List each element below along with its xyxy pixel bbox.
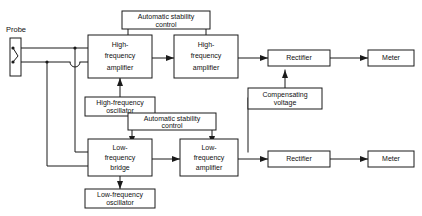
block-rectifier-bottom[interactable]: Rectifier	[268, 151, 330, 167]
arrowhead-hf-osc-to-hf-amp1	[117, 78, 123, 86]
block-high-frequency-amplifier-1[interactable]: High- frequency amplifier	[88, 35, 152, 78]
rectifier-bottom-label: Rectifier	[286, 155, 312, 162]
asc-bottom-label-line2: control	[161, 122, 182, 129]
arrowhead-lf-bridge-to-lf-osc	[117, 181, 123, 189]
comp-voltage-label-line2: voltage	[274, 99, 297, 107]
block-rectifier-top[interactable]: Rectifier	[268, 50, 330, 66]
block-automatic-stability-control-bottom[interactable]: Automatic stability control	[128, 113, 216, 130]
hf-amp-1-label-line1: High-	[112, 41, 129, 49]
meter-top-label: Meter	[382, 54, 401, 61]
hf-amp-2-label-line2: frequency	[191, 52, 222, 60]
hf-amp-1-label-line3: amplifier	[107, 64, 134, 72]
arrowhead-rectifier-bottom-to-meter-bottom	[360, 156, 368, 162]
lf-amp-label-line3: amplifier	[196, 164, 223, 172]
block-meter-bottom[interactable]: Meter	[368, 151, 414, 167]
block-low-frequency-bridge[interactable]: Low- frequency bridge	[88, 139, 152, 176]
asc-top-label-line2: control	[155, 21, 176, 28]
probe-terminal-top	[11, 46, 14, 49]
lf-bridge-label-line3: bridge	[110, 164, 130, 172]
arrowhead-hf-amp2-to-rectifier-top	[260, 55, 268, 61]
lf-osc-label-line2: oscillator	[106, 199, 134, 206]
arrowhead-comp-voltage-to-rectifier-top	[282, 70, 288, 78]
probe-terminal-bottom	[11, 60, 14, 63]
arrowhead-lf-amp-to-rectifier-bottom	[260, 156, 268, 162]
comp-voltage-label-line1: Compensating	[262, 91, 307, 99]
arrowhead-hf-amp1-to-hf-amp2	[166, 55, 174, 61]
block-meter-top[interactable]: Meter	[368, 50, 414, 66]
diagram-canvas: Probe Automatic stability control High- …	[0, 0, 422, 216]
block-compensating-voltage[interactable]: Compensating voltage	[248, 88, 322, 109]
lf-amp-label-line1: Low-	[201, 144, 217, 151]
block-high-frequency-amplifier-2[interactable]: High- frequency amplifier	[174, 35, 238, 78]
hf-amp-2-label-line1: High-	[198, 41, 215, 49]
block-automatic-stability-control-top[interactable]: Automatic stability control	[122, 11, 210, 29]
arrowhead-lf-bridge-to-lf-amp	[172, 156, 180, 162]
arrowhead-rectifier-top-to-meter-top	[360, 55, 368, 61]
wire-down-to-lf-bridge-left	[47, 62, 88, 166]
hf-amp-2-label-line3: amplifier	[193, 64, 220, 72]
block-diagram: Probe Automatic stability control High- …	[0, 0, 422, 216]
rectifier-top-label: Rectifier	[286, 54, 312, 61]
lf-bridge-label-line1: Low-	[112, 144, 128, 151]
lf-amp-label-line2: frequency	[194, 154, 225, 162]
meter-bottom-label: Meter	[382, 155, 401, 162]
probe-group[interactable]: Probe	[6, 25, 26, 76]
hf-amp-1-label-line2: frequency	[105, 52, 136, 60]
block-low-frequency-oscillator[interactable]: Low-frequency oscillator	[85, 189, 155, 208]
probe-label: Probe	[6, 25, 26, 34]
block-low-frequency-amplifier[interactable]: Low- frequency amplifier	[180, 139, 238, 176]
probe-body[interactable]	[10, 38, 21, 76]
lf-bridge-label-line2: frequency	[105, 154, 136, 162]
